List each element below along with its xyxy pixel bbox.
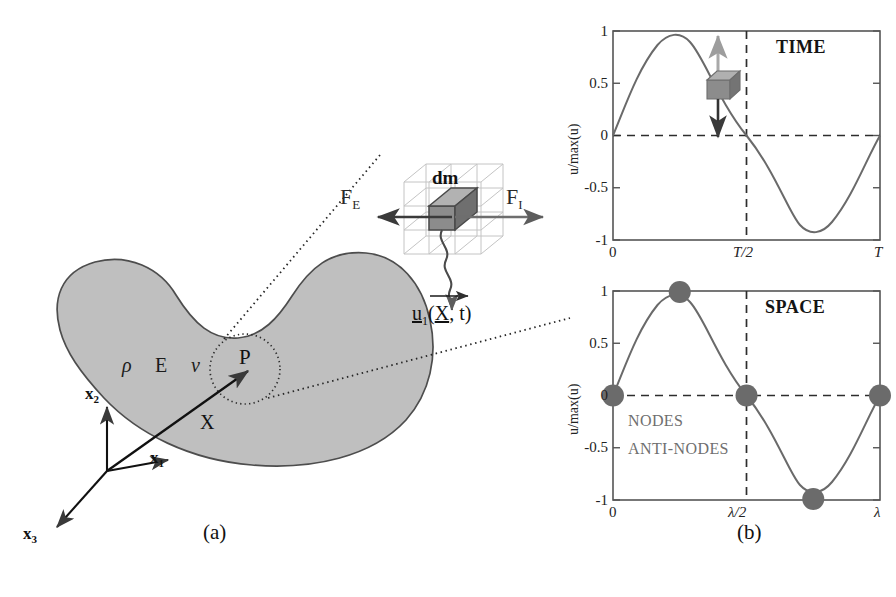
subfigure-caption-b: (b): [737, 522, 762, 543]
space-ytick-neg0p5: -0.5: [571, 440, 608, 455]
nodes-legend-label: NODES: [628, 413, 683, 429]
space-y-axis-label: u/max(u): [567, 384, 581, 435]
space-xtick-half-lambda: λ/2: [728, 505, 746, 520]
space-ytick-0p5: 0.5: [577, 336, 608, 351]
space-ytick-1: 1: [596, 284, 608, 299]
anti-node-marker: [669, 281, 691, 303]
space-xtick-0: 0: [609, 505, 617, 520]
space-plot-graphics: [0, 0, 896, 597]
space-xtick-lambda: λ: [874, 505, 881, 520]
figure-root: ρ E ν P X x1 x2 x3 dm FE FI u1(X, t) (a): [0, 0, 896, 597]
space-plot-title: SPACE: [765, 298, 825, 316]
node-marker: [736, 385, 758, 407]
space-ytick-0: 0: [596, 388, 608, 403]
anti-nodes-legend-label: ANTI-NODES: [628, 441, 729, 457]
node-marker: [869, 385, 891, 407]
anti-node-marker: [802, 488, 824, 510]
space-ytick-neg1: -1: [589, 493, 608, 508]
